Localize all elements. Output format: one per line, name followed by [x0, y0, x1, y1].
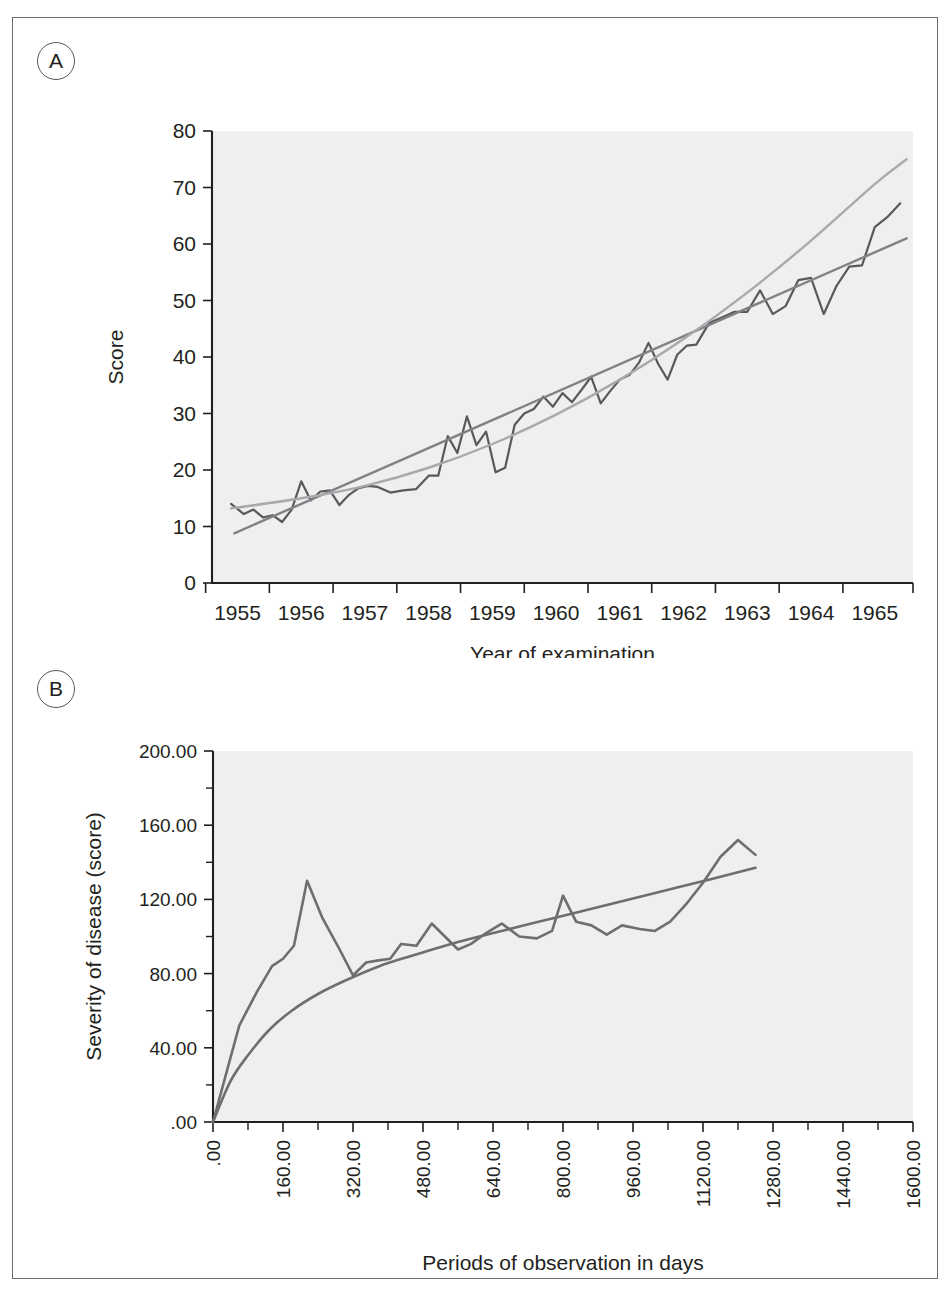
panel-b-ytick-label: 80.00	[149, 964, 197, 985]
panel-b-ytick-label: 120.00	[139, 889, 197, 910]
panel-b-plot-background	[213, 751, 913, 1122]
panel-a-xtick-label: 1963	[724, 601, 771, 624]
panel-a-xtick-label: 1962	[660, 601, 707, 624]
panel-b-plot: .0040.0080.00120.00160.00200.00.00160.00…	[13, 658, 939, 1280]
panel-a-plot: 0102030405060708019551956195719581959196…	[13, 18, 939, 658]
panel-b-xtick-label: 1280.00	[763, 1140, 784, 1209]
panel-a-ytick-label: 30	[173, 402, 196, 425]
panel-b-xtick-label: 1120.00	[693, 1140, 714, 1207]
panel-a-xtick-label: 1960	[533, 601, 580, 624]
panel-b-xtick-label: .00	[203, 1140, 224, 1166]
panel-a-ytick-label: 40	[173, 345, 196, 368]
panel-a-xtick-label: 1955	[214, 601, 261, 624]
panel-a-yaxis-title: Score	[104, 330, 127, 385]
panel-a-xtick-label: 1958	[405, 601, 452, 624]
panel-a-ytick-label: 0	[184, 571, 196, 594]
panel-b-xtick-label: 480.00	[413, 1140, 434, 1198]
panel-a-ytick-label: 70	[173, 176, 196, 199]
panel-a-xtick-label: 1956	[278, 601, 325, 624]
panel-a-xtick-label: 1964	[788, 601, 835, 624]
panel-b-xtick-label: 1600.00	[903, 1140, 924, 1209]
panel-b-ytick-label: 200.00	[139, 741, 197, 762]
panel-b-ytick-label: 40.00	[149, 1038, 197, 1059]
panel-a-ytick-label: 20	[173, 458, 196, 481]
panel-b-xtick-label: 640.00	[483, 1140, 504, 1198]
panel-b-ytick-label: .00	[171, 1112, 197, 1133]
panel-a-ytick-label: 80	[173, 119, 196, 142]
panel-a-xtick-label: 1965	[851, 601, 898, 624]
panel-a-xtick-label: 1961	[596, 601, 643, 624]
panel-b-ytick-label: 160.00	[139, 815, 197, 836]
panel-a: A 01020304050607080195519561957195819591…	[13, 18, 939, 658]
panel-b-xtick-label: 800.00	[553, 1140, 574, 1198]
panel-b-xtick-label: 960.00	[623, 1140, 644, 1198]
panel-b: B .0040.0080.00120.00160.00200.00.00160.…	[13, 658, 939, 1280]
figure-frame: A 01020304050607080195519561957195819591…	[12, 17, 938, 1279]
panel-b-xtick-label: 320.00	[343, 1140, 364, 1198]
panel-b-xaxis-title: Periods of observation in days	[422, 1251, 703, 1274]
panel-a-ytick-label: 60	[173, 232, 196, 255]
panel-a-xtick-label: 1959	[469, 601, 516, 624]
panel-b-xtick-label: 1440.00	[833, 1140, 854, 1209]
panel-a-plot-background	[212, 131, 913, 583]
panel-a-xtick-label: 1957	[342, 601, 389, 624]
panel-b-yaxis-title: Severity of disease (score)	[82, 812, 105, 1061]
panel-a-xaxis-title: Year of examination	[470, 642, 655, 658]
panel-b-xtick-label: 160.00	[273, 1140, 294, 1198]
panel-a-ytick-label: 50	[173, 289, 196, 312]
panel-a-ytick-label: 10	[173, 515, 196, 538]
